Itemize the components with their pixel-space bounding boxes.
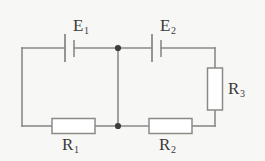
- label-r1-subscript: 1: [74, 144, 79, 155]
- label-r1-symbol: R: [62, 135, 74, 154]
- label-r1: R1: [62, 136, 79, 153]
- label-e1-symbol: E: [73, 16, 84, 35]
- label-r3: R3: [228, 80, 245, 97]
- label-e2-subscript: 2: [171, 25, 176, 36]
- junction-dot-top: [115, 45, 121, 51]
- label-e2: E2: [160, 17, 176, 34]
- label-r3-subscript: 3: [240, 88, 245, 99]
- resistor-r1-body: [52, 119, 95, 134]
- label-r2-subscript: 2: [171, 144, 176, 155]
- label-r2-symbol: R: [159, 135, 171, 154]
- battery-e1-symbol: [65, 34, 74, 62]
- circuit-schematic: [0, 0, 265, 161]
- label-r2: R2: [159, 136, 176, 153]
- label-e1-subscript: 1: [84, 25, 89, 36]
- label-r3-symbol: R: [228, 79, 240, 98]
- resistor-r3-body: [208, 68, 223, 110]
- battery-e2-symbol: [152, 34, 161, 62]
- label-e2-symbol: E: [160, 16, 171, 35]
- junction-dot-bottom: [115, 123, 121, 129]
- resistor-r2-body: [149, 119, 192, 134]
- label-e1: E1: [73, 17, 89, 34]
- circuit-diagram: E1 E2 R3 R1 R2: [0, 0, 265, 161]
